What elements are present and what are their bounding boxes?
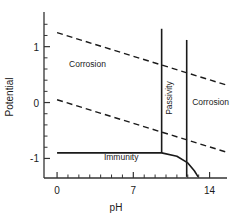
x-tick-label: 14 [204,185,216,196]
region-label-immunity: Immunity [104,152,139,162]
x-tick-label: 7 [131,185,137,196]
y-tick-label: 1 [33,42,39,53]
region-label-corrosion-left: Corrosion [69,59,106,69]
pourbaix-diagram-svg: 0714 10-1 CorrosionCorrosionPassivityImm… [0,0,231,216]
x-axis-label: pH [110,202,123,213]
pourbaix-diagram-figure: 0714 10-1 CorrosionCorrosionPassivityImm… [0,0,231,216]
region-label-passivity: Passivity [164,81,174,115]
y-axis-label: Potential [4,78,15,117]
y-axis-major-ticks [44,47,50,159]
series-hydrogen-line [57,100,227,153]
x-tick-label: 0 [54,185,60,196]
y-axis-tick-labels: 10-1 [30,42,39,165]
y-tick-label: -1 [30,153,39,164]
x-axis-tick-labels: 0714 [54,185,215,196]
y-tick-label: 0 [33,98,39,109]
region-label-corrosion-right: Corrosion [192,97,229,107]
